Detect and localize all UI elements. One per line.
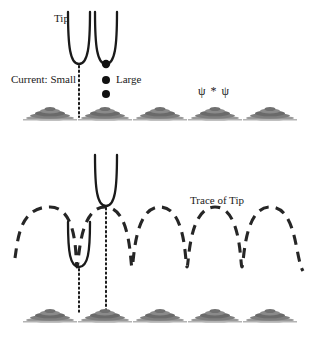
surface-atom <box>78 107 132 121</box>
surface-atom <box>133 107 187 121</box>
tip-left-probe <box>68 12 90 64</box>
surface-atom <box>243 107 297 121</box>
electron-dot <box>102 90 110 98</box>
atom-row-bottom <box>23 309 297 323</box>
current-large-label: Large <box>116 74 141 85</box>
surface-atom <box>23 309 77 323</box>
stm-schematic-figure: Tip Current: Small Large ψ * ψ Trace of … <box>0 0 319 337</box>
tip-right-probe <box>95 12 117 64</box>
electron-dot <box>102 76 110 84</box>
surface-atom <box>133 309 187 323</box>
figure-canvas <box>0 0 319 337</box>
psi-star-psi-label: ψ * ψ <box>198 85 230 97</box>
tip-trace-curve <box>15 207 303 271</box>
atom-row-top <box>23 107 297 121</box>
top-panel-group <box>23 12 297 121</box>
surface-atom <box>23 107 77 121</box>
surface-atom <box>243 309 297 323</box>
surface-atom <box>188 107 242 121</box>
tip-label: Tip <box>54 13 69 24</box>
bottom-panel-group <box>15 155 303 323</box>
electron-dot <box>102 60 110 68</box>
trace-of-tip-label: Trace of Tip <box>190 195 244 206</box>
surface-atom <box>78 309 132 323</box>
surface-atom <box>188 309 242 323</box>
tip-peak-probe <box>95 155 117 206</box>
current-small-label: Current: Small <box>11 74 76 85</box>
